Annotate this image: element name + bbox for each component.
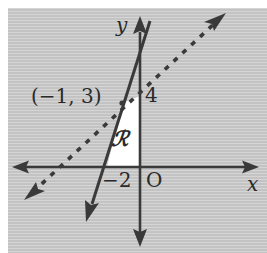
dashed-line-arrow-lower-left (24, 182, 45, 200)
x-intercept-label-minus-2: −2 (102, 170, 131, 190)
y-intercept-label-4: 4 (145, 85, 158, 105)
point-coordinate-label: (−1, 3) (31, 86, 102, 106)
point-marker-minus-one-three (119, 100, 124, 105)
y-axis-arrow-up (133, 16, 147, 34)
origin-label: O (146, 170, 162, 190)
figure-root: (−1, 3) 4 −2 O x y ℛ (0, 0, 267, 253)
x-axis-label: x (247, 174, 258, 194)
dashed-line-arrow-upper-right (204, 13, 226, 31)
y-axis-label: y (116, 15, 127, 35)
region-label-R: ℛ (111, 128, 130, 149)
coordinate-graph (0, 0, 267, 253)
